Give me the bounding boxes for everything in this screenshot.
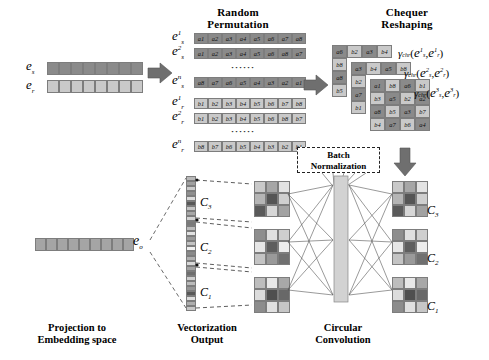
grid-row xyxy=(392,241,428,253)
grid-cell xyxy=(416,181,428,193)
grid-cell xyxy=(404,253,416,265)
grid-cell xyxy=(404,241,416,253)
caption-projection-line2: Embedding space xyxy=(12,334,142,346)
caption-projection: Projection to Embedding space xyxy=(12,322,142,346)
grid-cell xyxy=(392,181,404,193)
caption-vectorization-line1: Vectorization xyxy=(152,322,262,334)
grid-row xyxy=(392,301,428,313)
conv-output-label-c3: C3 xyxy=(427,203,439,219)
conv-output-label-c2: C2 xyxy=(427,251,439,267)
grid-cell xyxy=(416,229,428,241)
grid-row xyxy=(392,277,428,289)
grid-cell xyxy=(392,193,404,205)
caption-circular-convolution-line1: Circular xyxy=(288,322,398,334)
grid-cell xyxy=(392,229,404,241)
grid-cell xyxy=(404,229,416,241)
conv-output-1 xyxy=(392,277,428,313)
grid-row xyxy=(392,181,428,193)
grid-row xyxy=(392,193,428,205)
grid-cell xyxy=(404,181,416,193)
grid-cell xyxy=(404,193,416,205)
grid-cell xyxy=(392,205,404,217)
grid-cell xyxy=(392,289,404,301)
caption-circular-convolution-line2: Convolution xyxy=(288,334,398,346)
grid-cell xyxy=(416,277,428,289)
grid-cell xyxy=(392,277,404,289)
caption-vectorization-line2: Output xyxy=(152,334,262,346)
grid-cell xyxy=(392,241,404,253)
caption-vectorization: Vectorization Output xyxy=(152,322,262,346)
grid-cell xyxy=(392,253,404,265)
conv-output-3 xyxy=(392,181,428,217)
grid-cell xyxy=(404,301,416,313)
caption-circular-convolution: Circular Convolution xyxy=(288,322,398,346)
grid-cell xyxy=(392,301,404,313)
caption-projection-line1: Projection to xyxy=(12,322,142,334)
grid-row xyxy=(392,289,428,301)
grid-cell xyxy=(404,205,416,217)
conv-output-2 xyxy=(392,229,428,265)
grid-cell xyxy=(404,289,416,301)
grid-row xyxy=(392,205,428,217)
conv-output-label-c1: C1 xyxy=(427,299,439,315)
grid-row xyxy=(392,253,428,265)
grid-row xyxy=(392,229,428,241)
grid-cell xyxy=(404,277,416,289)
